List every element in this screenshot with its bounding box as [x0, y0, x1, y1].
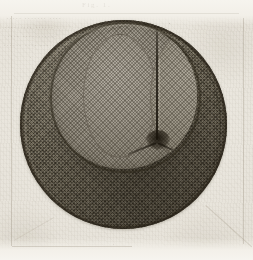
specimen-figure [20, 20, 227, 229]
paper-bottom-margin [0, 238, 253, 260]
outer-sphere-outline [20, 20, 227, 229]
engraved-plate-image: Fig. 1. ····· ······· ···· ········· ···… [0, 0, 253, 260]
